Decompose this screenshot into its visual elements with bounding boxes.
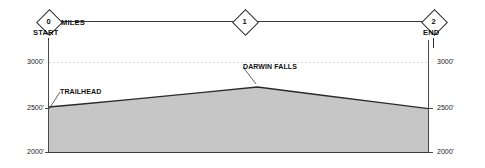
annotation-label-trailhead: TRAILHEAD — [60, 88, 101, 95]
annotation-label-darwin-falls: DARWIN FALLS — [243, 63, 297, 70]
elevation-profile-chart: 0 MILES START 1 2 END 3000' 2500' 2000' … — [0, 0, 485, 168]
x-axis-baseline — [48, 152, 429, 153]
elevation-fill-area — [49, 87, 429, 152]
elevation-profile-plot — [0, 0, 485, 168]
y-axis-right-line — [428, 40, 429, 153]
y-axis-left-line — [48, 40, 49, 153]
